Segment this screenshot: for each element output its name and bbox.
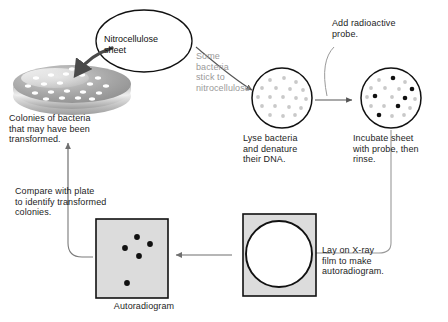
add-radioactive-probe-label: Add radioactive probe. <box>332 18 436 39</box>
autoradiogram-plate <box>96 219 168 298</box>
colonies-caption: Colonies of bacteria that may have been … <box>9 113 137 145</box>
diagram-canvas: Nitrocellulose sheet Colonies of bacteri… <box>0 0 448 322</box>
autoradiogram-graphic <box>96 219 168 298</box>
compare-with-plate-caption: Compare with plate to identify transform… <box>15 186 139 218</box>
add-probe-leader-line <box>325 47 334 96</box>
xray-film-exposed-circle <box>246 221 312 287</box>
nitrocellulose-sheet-label: Nitrocellulose sheet <box>104 34 190 55</box>
lay-on-xray-caption: Lay on X-ray film to make autoradiogram. <box>322 245 408 277</box>
incubate-caption: Incubate sheet with probe, then rinse. <box>353 133 447 165</box>
petri-dish-graphic <box>13 65 131 115</box>
lyse-caption: Lyse bacteria and denature their DNA. <box>243 133 329 165</box>
autoradiogram-caption: Autoradiogram <box>96 301 192 312</box>
some-bacteria-stick-caption: Some bacteria stick to nitrocellulose. <box>196 51 262 93</box>
incubate-circle-graphic <box>361 68 421 128</box>
xray-film-graphic <box>243 214 316 296</box>
